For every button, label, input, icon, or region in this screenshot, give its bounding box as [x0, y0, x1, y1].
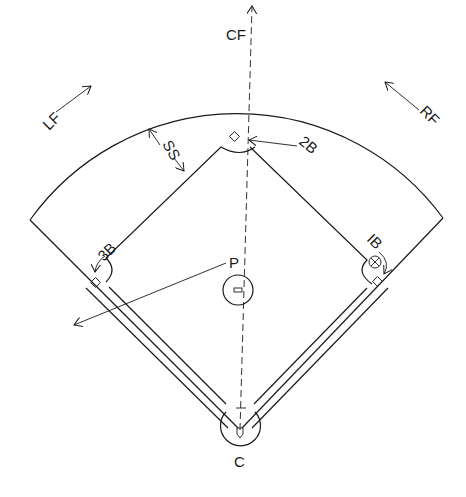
1b-label: IB: [364, 230, 386, 252]
ss-label: SS: [159, 137, 184, 163]
lf-arrow: [56, 86, 91, 112]
third-base-line-inner: [109, 287, 226, 404]
right-foul-line: [242, 218, 443, 428]
2b-label: 2B: [296, 132, 321, 157]
lf-label: LF: [39, 109, 63, 133]
p-label: P: [229, 254, 239, 271]
baseball-field-diagram: CF LF RF SS 2B 3B IB P C: [0, 0, 466, 497]
left-foul-line: [30, 220, 238, 428]
first-base: [373, 277, 383, 287]
outfield-fence-arc: [30, 114, 443, 220]
rf-label: RF: [417, 102, 443, 128]
1b-arrow: [379, 252, 387, 274]
center-field-dashed-line: [240, 6, 252, 430]
first-base-line-inner: [254, 288, 367, 404]
3b-label: 3B: [94, 239, 119, 264]
c-label: C: [234, 453, 245, 470]
infield-right-edge: [250, 147, 372, 284]
rf-arrow: [385, 82, 419, 110]
pitcher-rubber: [234, 288, 242, 292]
ss-arrow-down: [174, 158, 184, 171]
pitcher-mound: [223, 275, 253, 305]
ss-arrow-up: [149, 129, 160, 145]
second-base: [230, 132, 240, 142]
first-base-line-outer: [252, 288, 388, 428]
2b-arrow: [249, 140, 297, 146]
third-base-line-outer: [86, 288, 228, 428]
pitcher-throw-arrow: [74, 263, 226, 325]
cf-label: CF: [226, 26, 246, 43]
